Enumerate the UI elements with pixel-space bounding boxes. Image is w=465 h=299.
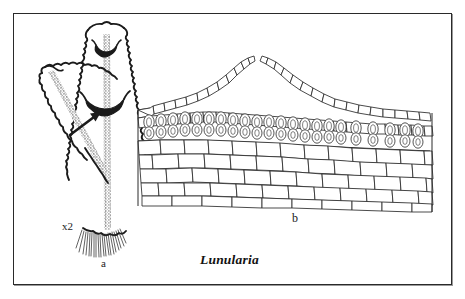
plate-frame [13,13,452,285]
figure-root: x2 a b Lunularia [0,0,465,299]
panel-label-a: a [101,258,106,269]
panel-label-b: b [292,212,298,224]
magnification-label-x2: x2 [62,221,73,232]
figure-caption-genus: Lunularia [200,252,259,268]
